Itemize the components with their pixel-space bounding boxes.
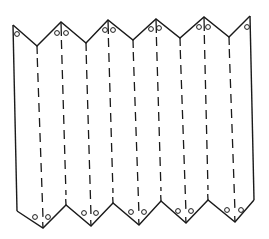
- fold-line-dashed-4: [133, 52, 139, 215]
- circle-mark-icon: [55, 31, 60, 36]
- fold-line-dashed-8: [229, 49, 235, 212]
- circle-mark-icon: [111, 28, 116, 33]
- circle-mark-icon: [189, 209, 194, 214]
- circle-mark-icon: [149, 27, 154, 32]
- fold-line-dashed-2: [86, 55, 91, 216]
- fold-line-dashed-3: [108, 38, 113, 193]
- circle-mark-icon: [157, 26, 162, 31]
- circle-mark-icon: [197, 25, 202, 30]
- left-edge: [13, 25, 17, 211]
- pleat-fold-diagram: [0, 0, 269, 239]
- fold-line-dashed-1: [61, 40, 66, 195]
- top-edge: [13, 16, 250, 46]
- circle-mark-icon: [206, 25, 211, 30]
- circle-mark-icon: [245, 25, 250, 30]
- circle-mark-icon: [176, 209, 181, 214]
- fold-lines: [37, 17, 235, 228]
- fold-line-dashed-5: [156, 37, 161, 191]
- circle-mark-icon: [103, 28, 108, 33]
- circle-mark-icon: [64, 31, 69, 36]
- circle-marks: [15, 25, 250, 220]
- circle-mark-icon: [239, 208, 244, 213]
- fold-line-dashed-0: [37, 58, 43, 218]
- circle-mark-icon: [142, 210, 147, 215]
- circle-mark-icon: [225, 208, 230, 213]
- circle-mark-icon: [94, 211, 99, 216]
- fold-line-dashed-7: [204, 35, 208, 190]
- circle-mark-icon: [129, 210, 134, 215]
- circle-mark-icon: [46, 215, 51, 220]
- bottom-edge: [17, 200, 254, 228]
- circle-mark-icon: [82, 211, 87, 216]
- right-edge: [250, 16, 254, 200]
- fold-line-dashed-6: [180, 50, 186, 213]
- circle-mark-icon: [33, 215, 38, 220]
- circle-mark-icon: [15, 32, 20, 37]
